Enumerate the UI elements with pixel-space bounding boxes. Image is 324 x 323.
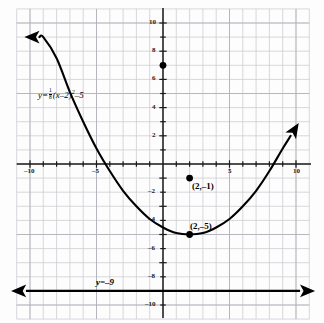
x-tick-label-10: 10 [293, 168, 300, 175]
y-tick-label-neg8: –8 [148, 273, 155, 280]
coordinate-plane-svg [0, 0, 324, 323]
point-label-2-neg5: (2,–5) [190, 222, 212, 231]
equation-prefix: y= [38, 90, 48, 100]
fraction-denominator: 8 [49, 95, 53, 101]
equation-suffix: –5 [75, 90, 84, 100]
y-tick-label-10: 10 [149, 19, 156, 26]
y-tick-label-2: 2 [152, 132, 156, 139]
y-tick-label-8: 8 [152, 47, 156, 54]
line-equation-label: y=–9 [96, 278, 114, 287]
vertex-point-dot [186, 231, 193, 238]
y-axis [159, 8, 166, 318]
y-tick-label-neg2: –2 [148, 188, 155, 195]
y-tick-label-4: 4 [152, 104, 156, 111]
y-tick-label-neg6: –6 [148, 245, 155, 252]
point-label-2-neg1: (2,–1) [192, 182, 214, 191]
x-axis [17, 160, 311, 167]
equation-body: (x–2) [53, 90, 72, 100]
parabola-equation-label: y=18(x–2)2–5 [38, 88, 84, 101]
graph-figure: –10 –5 5 10 10 8 6 4 2 –2 –4 –6 –8 –10 y… [0, 0, 324, 323]
y-tick-label-neg4: –4 [148, 216, 155, 223]
equation-fraction: 18 [49, 88, 53, 101]
y-tick-label-6: 6 [152, 75, 156, 82]
x-tick-label-neg5: –5 [92, 168, 99, 175]
y-tick-label-neg10: –10 [145, 301, 156, 308]
y-intercept-point [160, 62, 167, 69]
x-tick-label-5: 5 [228, 168, 232, 175]
x-tick-label-neg10: –10 [24, 168, 35, 175]
